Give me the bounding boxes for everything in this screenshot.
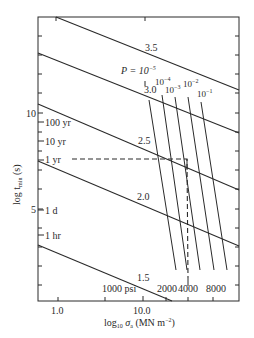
line-p-1e-4 [162, 95, 187, 270]
chart-figure: 3.5 3.0 2.5 2.0 1.5 P = 10−5 10−4 10−3 1… [0, 0, 254, 338]
psi-label-2000: 2000 [157, 283, 177, 294]
x-tick-label-10: 10.0 [133, 305, 151, 316]
label-1.5: 1.5 [137, 272, 150, 283]
label-2.5: 2.5 [138, 135, 151, 146]
psi-label-1000: 1000 psi [102, 283, 136, 294]
x-axis-ticks [58, 296, 213, 301]
x-tick-label-1: 1.0 [51, 305, 64, 316]
label-3.5: 3.5 [145, 42, 158, 53]
y-axis-title: log tmin (s) [11, 165, 23, 205]
dashed-annotation-line [72, 159, 188, 278]
label-2.0: 2.0 [137, 191, 150, 202]
x-axis-title: log10 σa (MN m−2) [104, 317, 175, 329]
time-label-1d: 1 d [45, 205, 58, 216]
time-label-10yr: 10 yr [45, 136, 67, 147]
y-tick-label-10: 10 [26, 108, 36, 119]
probability-lines [145, 81, 227, 270]
time-label-1hr: 1 hr [45, 230, 62, 241]
psi-label-8000: 8000 [206, 283, 226, 294]
label-p-1e-5: P = 10−5 [120, 65, 156, 76]
line-p-1e-2 [188, 97, 214, 270]
psi-label-4000: 4000 [178, 283, 198, 294]
y-axis-right-ticks [235, 36, 239, 285]
time-label-100yr: 100 yr [45, 117, 72, 128]
label-p-1e-2: 10−2 [183, 78, 198, 89]
time-label-1yr: 1 yr [45, 154, 62, 165]
x-axis-top-ticks [56, 17, 145, 21]
line-3.5 [56, 17, 239, 90]
label-p-1e-3: 10−3 [165, 84, 180, 95]
label-p-1e-1: 10−1 [197, 88, 212, 99]
y-tick-label-5: 5 [31, 204, 36, 215]
line-p-1e-5 [149, 100, 176, 270]
time-marker-ticks [38, 122, 44, 235]
